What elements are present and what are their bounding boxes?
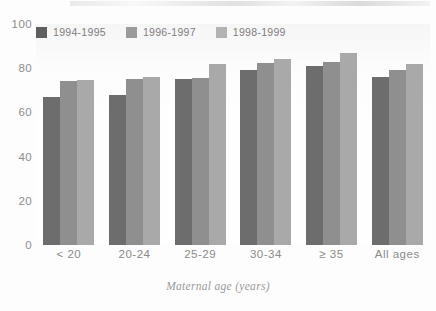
bar[interactable] — [372, 77, 389, 245]
bar[interactable] — [126, 79, 143, 245]
y-axis-tick-label: 0 — [0, 239, 32, 251]
x-axis-title: Maternal age (years) — [0, 280, 436, 292]
bar[interactable] — [340, 53, 357, 245]
bar[interactable] — [175, 79, 192, 245]
y-axis: 020406080100 — [0, 24, 32, 245]
bar[interactable] — [323, 62, 340, 245]
y-axis-tick-label: 20 — [0, 195, 32, 207]
bar[interactable] — [109, 95, 126, 245]
grouped-bar-chart: 020406080100 < 2020-2425-2930-34≥ 35All … — [0, 0, 436, 311]
x-axis-tick-label: < 20 — [36, 248, 102, 260]
bar-group — [364, 24, 430, 245]
bar[interactable] — [240, 70, 257, 245]
x-axis: < 2020-2425-2930-34≥ 35All ages — [36, 248, 430, 260]
legend-item[interactable]: 1998-1999 — [216, 26, 286, 38]
bar-group — [299, 24, 365, 245]
legend-swatch-1998-1999 — [216, 27, 227, 38]
bars-layer — [36, 24, 430, 245]
bar[interactable] — [77, 80, 94, 245]
bar[interactable] — [306, 66, 323, 245]
legend-item[interactable]: 1994-1995 — [36, 26, 106, 38]
bar[interactable] — [60, 81, 77, 245]
x-axis-tick-label: 20-24 — [102, 248, 168, 260]
bar-group — [102, 24, 168, 245]
bar[interactable] — [43, 97, 60, 245]
x-axis-tick-label: ≥ 35 — [299, 248, 365, 260]
chart-legend: 1994-19951996-19971998-1999 — [36, 24, 286, 40]
bar[interactable] — [192, 78, 209, 245]
legend-item[interactable]: 1996-1997 — [126, 26, 196, 38]
legend-swatch-1996-1997 — [126, 27, 137, 38]
bar-group — [36, 24, 102, 245]
bar[interactable] — [209, 64, 226, 245]
bar[interactable] — [406, 64, 423, 245]
x-axis-tick-label: 25-29 — [167, 248, 233, 260]
y-axis-tick-label: 40 — [0, 151, 32, 163]
legend-item-label: 1998-1999 — [233, 26, 286, 38]
legend-item-label: 1994-1995 — [53, 26, 106, 38]
y-axis-tick-label: 100 — [0, 18, 32, 30]
y-axis-tick-label: 80 — [0, 62, 32, 74]
x-axis-tick-label: All ages — [364, 248, 430, 260]
legend-swatch-1994-1995 — [36, 27, 47, 38]
bar-group — [233, 24, 299, 245]
bar[interactable] — [257, 63, 274, 245]
x-axis-tick-label: 30-34 — [233, 248, 299, 260]
y-axis-tick-label: 60 — [0, 106, 32, 118]
bar[interactable] — [274, 59, 291, 245]
bar[interactable] — [143, 77, 160, 245]
bar[interactable] — [389, 70, 406, 245]
legend-item-label: 1996-1997 — [143, 26, 196, 38]
bar-group — [167, 24, 233, 245]
